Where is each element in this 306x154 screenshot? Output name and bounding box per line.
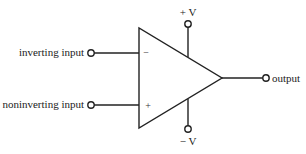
inverting-input-terminal — [88, 50, 94, 56]
output-label: output — [272, 72, 300, 84]
op-amp-svg: inverting input − noninverting input + +… — [0, 0, 306, 154]
plus-sign: + — [145, 100, 151, 111]
positive-supply-terminal — [185, 21, 191, 27]
output-terminal — [263, 75, 269, 81]
inverting-input-label: inverting input — [19, 46, 84, 58]
noninverting-input-label: noninverting input — [2, 98, 84, 110]
op-amp-diagram: inverting input − noninverting input + +… — [0, 0, 306, 154]
positive-supply-label: + V — [180, 6, 197, 18]
negative-supply-label: − V — [180, 135, 197, 147]
minus-sign: − — [143, 47, 149, 58]
noninverting-input-terminal — [88, 102, 94, 108]
op-amp-triangle — [139, 28, 222, 128]
negative-supply-terminal — [185, 126, 191, 132]
